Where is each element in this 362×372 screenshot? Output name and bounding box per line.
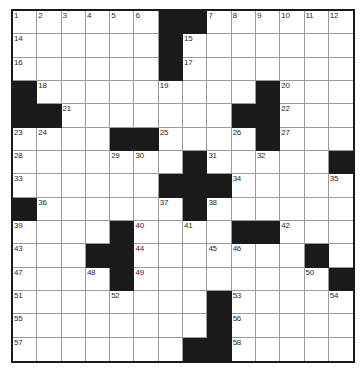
grid-cell[interactable] xyxy=(183,268,207,291)
grid-cell[interactable] xyxy=(110,34,134,57)
grid-cell[interactable] xyxy=(329,198,353,221)
grid-cell[interactable] xyxy=(86,338,110,361)
grid-cell[interactable] xyxy=(329,221,353,244)
grid-cell[interactable] xyxy=(62,221,86,244)
grid-cell-numbered[interactable]: 21 xyxy=(62,104,86,127)
grid-cell-numbered[interactable]: 23 xyxy=(13,128,37,151)
grid-cell[interactable] xyxy=(232,198,256,221)
grid-cell[interactable] xyxy=(110,58,134,81)
grid-cell-numbered[interactable]: 17 xyxy=(183,58,207,81)
grid-cell[interactable] xyxy=(305,338,329,361)
grid-cell-numbered[interactable]: 9 xyxy=(256,11,280,34)
grid-cell-numbered[interactable]: 57 xyxy=(13,338,37,361)
grid-cell[interactable] xyxy=(256,34,280,57)
grid-cell[interactable] xyxy=(110,104,134,127)
grid-cell[interactable] xyxy=(159,314,183,337)
grid-cell-numbered[interactable]: 7 xyxy=(207,11,231,34)
grid-cell[interactable] xyxy=(280,34,304,57)
grid-cell-numbered[interactable]: 44 xyxy=(134,244,158,267)
grid-cell-numbered[interactable]: 5 xyxy=(110,11,134,34)
grid-cell[interactable] xyxy=(62,198,86,221)
grid-cell[interactable] xyxy=(256,338,280,361)
grid-cell[interactable] xyxy=(62,314,86,337)
grid-cell[interactable] xyxy=(86,104,110,127)
grid-cell-numbered[interactable]: 37 xyxy=(159,198,183,221)
grid-cell[interactable] xyxy=(329,104,353,127)
grid-cell[interactable] xyxy=(256,244,280,267)
grid-cell[interactable] xyxy=(37,268,61,291)
grid-cell-numbered[interactable]: 11 xyxy=(305,11,329,34)
grid-cell[interactable] xyxy=(329,338,353,361)
grid-cell[interactable] xyxy=(305,314,329,337)
grid-cell-numbered[interactable]: 18 xyxy=(37,81,61,104)
grid-cell[interactable] xyxy=(86,314,110,337)
grid-cell[interactable] xyxy=(280,151,304,174)
grid-cell[interactable] xyxy=(37,151,61,174)
grid-cell[interactable] xyxy=(207,104,231,127)
grid-cell[interactable] xyxy=(134,174,158,197)
grid-cell[interactable] xyxy=(37,34,61,57)
grid-cell[interactable] xyxy=(159,151,183,174)
grid-cell-numbered[interactable]: 15 xyxy=(183,34,207,57)
grid-cell[interactable] xyxy=(159,221,183,244)
grid-cell[interactable] xyxy=(62,81,86,104)
grid-cell-numbered[interactable]: 14 xyxy=(13,34,37,57)
grid-cell-numbered[interactable]: 52 xyxy=(110,291,134,314)
grid-cell[interactable] xyxy=(329,314,353,337)
grid-cell-numbered[interactable]: 10 xyxy=(280,11,304,34)
grid-cell[interactable] xyxy=(159,244,183,267)
grid-cell-numbered[interactable]: 40 xyxy=(134,221,158,244)
grid-cell[interactable] xyxy=(134,81,158,104)
grid-cell[interactable] xyxy=(256,174,280,197)
grid-cell[interactable] xyxy=(134,58,158,81)
grid-cell-numbered[interactable]: 6 xyxy=(134,11,158,34)
grid-cell[interactable] xyxy=(280,244,304,267)
grid-cell[interactable] xyxy=(256,58,280,81)
grid-cell-numbered[interactable]: 42 xyxy=(280,221,304,244)
grid-cell[interactable] xyxy=(305,128,329,151)
grid-cell[interactable] xyxy=(305,291,329,314)
grid-cell[interactable] xyxy=(37,314,61,337)
grid-cell-numbered[interactable]: 49 xyxy=(134,268,158,291)
grid-cell[interactable] xyxy=(256,291,280,314)
grid-cell[interactable] xyxy=(37,291,61,314)
grid-cell[interactable] xyxy=(207,268,231,291)
grid-cell[interactable] xyxy=(110,81,134,104)
grid-cell[interactable] xyxy=(62,151,86,174)
grid-cell[interactable] xyxy=(232,151,256,174)
grid-cell-numbered[interactable]: 19 xyxy=(159,81,183,104)
grid-cell-numbered[interactable]: 29 xyxy=(110,151,134,174)
grid-cell[interactable] xyxy=(86,151,110,174)
grid-cell-numbered[interactable]: 1 xyxy=(13,11,37,34)
grid-cell-numbered[interactable]: 47 xyxy=(13,268,37,291)
grid-cell-numbered[interactable]: 48 xyxy=(86,268,110,291)
grid-cell-numbered[interactable]: 55 xyxy=(13,314,37,337)
grid-cell-numbered[interactable]: 20 xyxy=(280,81,304,104)
grid-cell[interactable] xyxy=(110,198,134,221)
grid-cell[interactable] xyxy=(86,81,110,104)
grid-cell-numbered[interactable]: 35 xyxy=(329,174,353,197)
grid-cell[interactable] xyxy=(37,221,61,244)
grid-cell[interactable] xyxy=(305,221,329,244)
grid-cell-numbered[interactable]: 53 xyxy=(232,291,256,314)
grid-cell-numbered[interactable]: 27 xyxy=(280,128,304,151)
grid-cell[interactable] xyxy=(134,198,158,221)
grid-cell[interactable] xyxy=(305,151,329,174)
grid-cell[interactable] xyxy=(86,291,110,314)
grid-cell[interactable] xyxy=(134,104,158,127)
grid-cell[interactable] xyxy=(86,34,110,57)
grid-cell[interactable] xyxy=(305,58,329,81)
grid-cell[interactable] xyxy=(305,198,329,221)
grid-cell[interactable] xyxy=(62,34,86,57)
grid-cell[interactable] xyxy=(159,338,183,361)
grid-cell-numbered[interactable]: 41 xyxy=(183,221,207,244)
grid-cell-numbered[interactable]: 12 xyxy=(329,11,353,34)
grid-cell[interactable] xyxy=(62,291,86,314)
grid-cell[interactable] xyxy=(62,174,86,197)
grid-cell-numbered[interactable]: 43 xyxy=(13,244,37,267)
grid-cell[interactable] xyxy=(37,244,61,267)
grid-cell[interactable] xyxy=(256,268,280,291)
grid-cell[interactable] xyxy=(329,34,353,57)
grid-cell[interactable] xyxy=(207,81,231,104)
grid-cell-numbered[interactable]: 2 xyxy=(37,11,61,34)
